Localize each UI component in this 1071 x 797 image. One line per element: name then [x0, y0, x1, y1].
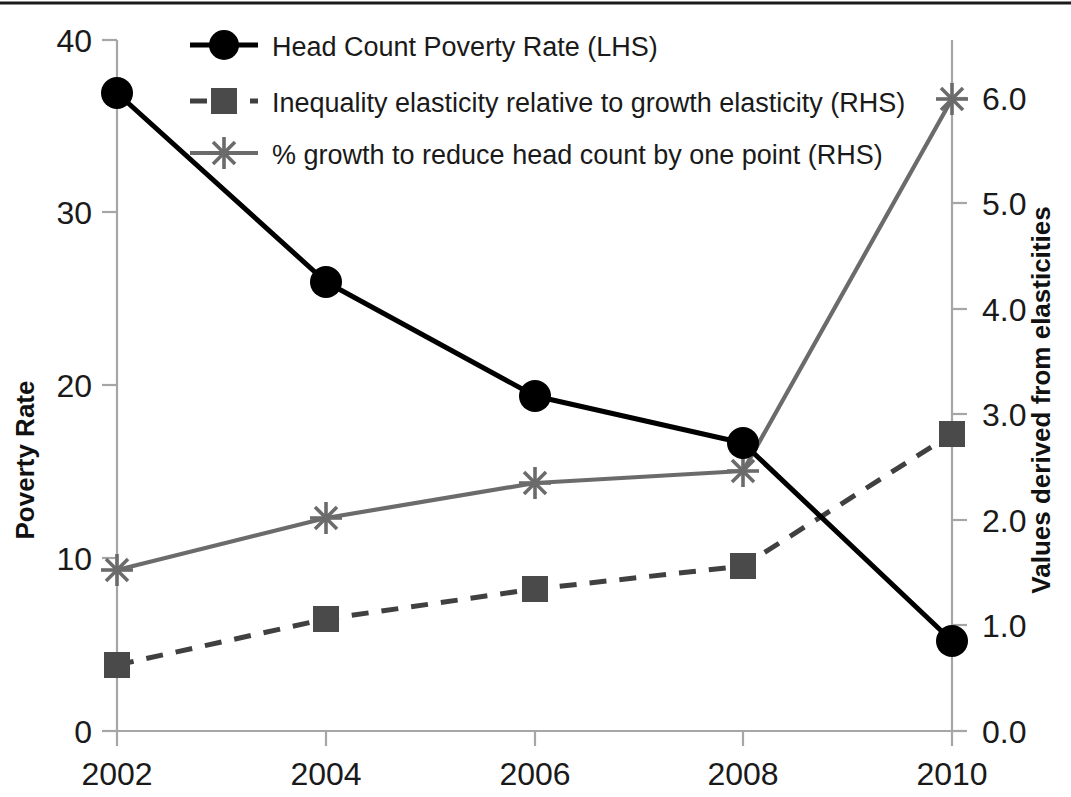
legend-item-inequality[interactable]: Inequality elasticity relative to growth… [190, 88, 905, 118]
chart-container: 40 30 20 10 0 6.0 5.0 4.0 3.0 2.0 1.0 0.… [0, 0, 1071, 797]
legend-marker-star-icon [208, 137, 240, 169]
legend-label-inequality: Inequality elasticity relative to growth… [272, 88, 905, 118]
x-tick-label-2008: 2008 [707, 756, 778, 792]
legend-marker-square-icon [211, 88, 237, 114]
right-tick-label-6: 6.0 [982, 81, 1026, 117]
right-tick-label-4: 4.0 [982, 292, 1026, 328]
left-tick-label-40: 40 [56, 23, 92, 59]
marker-star-2010 [936, 83, 968, 115]
marker-star-2004 [310, 502, 342, 534]
right-tick-label-0: 0.0 [982, 714, 1026, 750]
marker-square-2002 [104, 652, 130, 678]
marker-square-2010 [939, 421, 965, 447]
right-tick-label-5: 5.0 [982, 186, 1026, 222]
right-tick-label-3: 3.0 [982, 397, 1026, 433]
left-tick-label-10: 10 [56, 541, 92, 577]
marker-square-2008 [730, 553, 756, 579]
legend-item-poverty[interactable]: Head Count Poverty Rate (LHS) [190, 30, 658, 62]
legend-item-growth[interactable]: % growth to reduce head count by one poi… [190, 137, 883, 170]
marker-star-2008 [727, 455, 759, 487]
x-axis [117, 731, 952, 746]
legend-marker-circle-icon [209, 30, 239, 60]
right-axis-title: Values derived from elasticities [1026, 206, 1056, 593]
left-tick-label-0: 0 [74, 714, 92, 750]
marker-circle-2008 [727, 427, 759, 459]
left-axis-title: Poverty Rate [10, 381, 40, 540]
legend-label-poverty: Head Count Poverty Rate (LHS) [272, 32, 658, 62]
chart-canvas: 40 30 20 10 0 6.0 5.0 4.0 3.0 2.0 1.0 0.… [0, 0, 1071, 797]
right-tick-label-2: 2.0 [982, 503, 1026, 539]
x-tick-label-2006: 2006 [499, 756, 570, 792]
left-tick-label-30: 30 [56, 195, 92, 231]
x-tick-label-2004: 2004 [290, 756, 361, 792]
legend-label-growth: % growth to reduce head count by one poi… [272, 140, 883, 170]
x-tick-label-2010: 2010 [916, 756, 987, 792]
series-inequality [104, 421, 965, 678]
x-tick-label-2002: 2002 [81, 756, 152, 792]
marker-square-2006 [522, 576, 548, 602]
marker-circle-2004 [310, 266, 342, 298]
marker-circle-2002 [101, 77, 133, 109]
left-tick-label-20: 20 [56, 368, 92, 404]
chart-legend: Head Count Poverty Rate (LHS) Inequality… [190, 30, 905, 170]
marker-star-2006 [519, 467, 551, 499]
left-axis [102, 40, 117, 731]
marker-circle-2010 [936, 625, 968, 657]
marker-square-2004 [313, 606, 339, 632]
right-tick-label-1: 1.0 [982, 608, 1026, 644]
marker-circle-2006 [519, 380, 551, 412]
